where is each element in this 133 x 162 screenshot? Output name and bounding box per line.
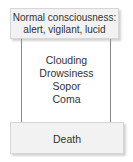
stage-drowsiness: Drowsiness bbox=[0, 67, 133, 80]
top-box-line-1: Normal consciousness: bbox=[11, 12, 118, 24]
normal-consciousness-box: Normal consciousness: alert, vigilant, l… bbox=[10, 8, 119, 39]
consciousness-stages-list: Clouding Drowsiness Sopor Coma bbox=[0, 54, 133, 106]
stage-clouding: Clouding bbox=[0, 54, 133, 67]
stage-sopor: Sopor bbox=[0, 80, 133, 93]
death-label: Death bbox=[53, 133, 81, 145]
top-box-line-2: alert, vigilant, lucid bbox=[11, 24, 118, 36]
stage-coma: Coma bbox=[0, 93, 133, 106]
death-box: Death bbox=[10, 122, 124, 154]
